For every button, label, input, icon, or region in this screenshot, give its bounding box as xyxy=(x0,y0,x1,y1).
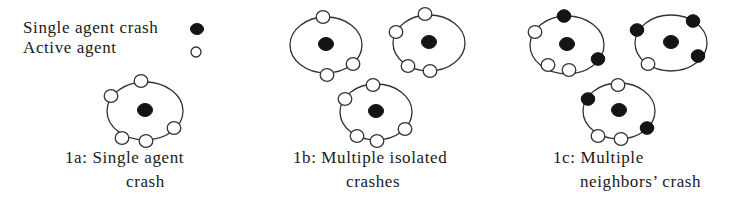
crashed-agent-icon xyxy=(691,50,705,63)
crashed-agent-icon xyxy=(581,93,595,106)
active-agent-icon xyxy=(167,122,181,135)
crashed-center-agent-icon xyxy=(664,36,679,49)
active-agent-icon xyxy=(423,65,437,78)
panel-1b: 1b: Multiple isolatedcrashes xyxy=(290,8,465,191)
active-agent-icon xyxy=(316,11,330,24)
panel-1a: 1a: Single agentcrash xyxy=(65,75,184,191)
crashed-agent-icon xyxy=(630,24,644,37)
active-agent-icon xyxy=(338,93,352,106)
caption-line-1: 1c: Multiple xyxy=(553,148,644,167)
active-agent-icon xyxy=(139,135,153,148)
active-agent-icon xyxy=(370,135,384,148)
active-agent-icon xyxy=(541,59,555,72)
active-agent-icon xyxy=(350,130,364,143)
active-agent-icon xyxy=(401,60,415,73)
active-agent-icon xyxy=(134,75,148,88)
active-agent-icon xyxy=(346,58,360,71)
agent-cluster xyxy=(630,15,707,71)
crashed-center-agent-icon xyxy=(138,104,153,117)
crashed-center-agent-icon xyxy=(319,38,334,51)
active-agent-icon xyxy=(418,8,432,21)
agent-cluster xyxy=(528,10,605,77)
active-agent-icon xyxy=(528,26,542,39)
agent-cluster xyxy=(581,79,655,146)
active-agent-icon xyxy=(614,133,628,146)
legend-label: Single agent crash xyxy=(23,18,158,37)
active-agent-icon xyxy=(641,58,655,71)
panels: 1a: Single agentcrash1b: Multiple isolat… xyxy=(65,8,707,191)
crashed-agent-icon xyxy=(191,24,204,35)
caption-line-2: crash xyxy=(126,172,165,191)
active-agent-icon xyxy=(115,132,129,145)
agent-cluster xyxy=(389,8,465,78)
caption-line-1: 1a: Single agent xyxy=(65,148,184,167)
legend: Single agent crashActive agent xyxy=(23,18,204,57)
crashed-center-agent-icon xyxy=(560,38,575,51)
agent-cluster xyxy=(290,11,362,82)
crashed-agent-icon xyxy=(557,10,571,23)
legend-label: Active agent xyxy=(23,38,117,57)
agent-cluster xyxy=(104,75,183,148)
active-agent-icon xyxy=(398,123,412,136)
panel-1c: 1c: Multipleneighbors’ crash xyxy=(528,10,707,191)
agent-crash-diagram: Single agent crashActive agent 1a: Singl… xyxy=(0,0,744,202)
caption-line-2: crashes xyxy=(346,172,400,191)
caption-line-2: neighbors’ crash xyxy=(580,172,701,191)
crashed-center-agent-icon xyxy=(612,104,627,117)
active-agent-icon xyxy=(389,26,403,39)
active-agent-icon xyxy=(320,69,334,82)
active-agent-icon xyxy=(366,79,380,92)
crashed-center-agent-icon xyxy=(369,105,384,118)
active-agent-icon xyxy=(191,47,201,57)
agent-cluster xyxy=(338,79,412,148)
caption-line-1: 1b: Multiple isolated xyxy=(293,148,447,167)
crashed-agent-icon xyxy=(640,122,654,135)
active-agent-icon xyxy=(611,79,625,92)
crashed-agent-icon xyxy=(591,53,605,66)
active-agent-icon xyxy=(591,130,605,143)
active-agent-icon xyxy=(104,90,118,103)
crashed-center-agent-icon xyxy=(422,36,437,49)
active-agent-icon xyxy=(562,64,576,77)
crashed-agent-icon xyxy=(686,15,700,28)
